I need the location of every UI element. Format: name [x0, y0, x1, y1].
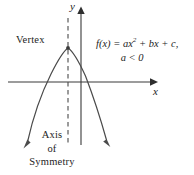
- axis-of-symmetry-label-line1: Axis: [14, 128, 90, 142]
- function-formula-annotation: f(x) = ax2 + bx + c, a < 0: [96, 36, 178, 65]
- x-axis-label: x: [153, 86, 158, 97]
- axis-of-symmetry-label: Axis of Symmetry: [14, 128, 90, 169]
- y-axis-arrowhead-icon: [77, 7, 84, 15]
- y-axis-label: y: [70, 1, 75, 12]
- parabola-figure: y x Vertex Axis of Symmetry f(x) = ax2 +…: [0, 0, 194, 175]
- formula-suffix: + bx + c,: [136, 38, 178, 49]
- axis-of-symmetry-label-line2: of: [14, 142, 90, 156]
- axis-of-symmetry-label-line3: Symmetry: [14, 155, 90, 169]
- right-branch-arrowhead-icon: [103, 139, 110, 147]
- x-axis: [8, 78, 158, 86]
- y-axis: [77, 7, 84, 146]
- formula-prefix: f(x) = ax: [96, 38, 133, 49]
- vertex-label: Vertex: [16, 35, 45, 46]
- formula-condition: a < 0: [96, 51, 178, 65]
- vertex-point-marker: [66, 46, 70, 50]
